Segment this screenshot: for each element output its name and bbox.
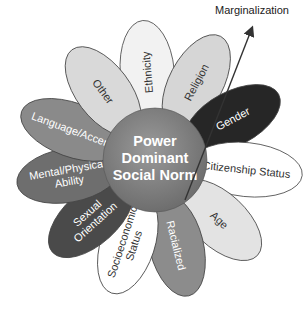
marginalization-label: Marginalization bbox=[215, 4, 289, 16]
marginalization-flower-diagram: EthnicityReligionGenderCitizenship Statu… bbox=[0, 0, 308, 315]
